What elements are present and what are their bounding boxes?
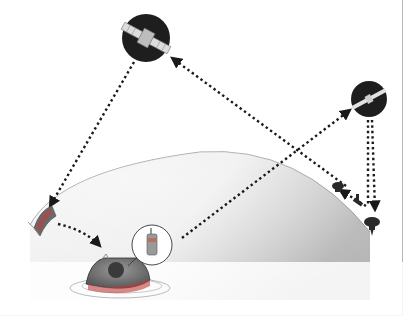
link-geo-satellite-to-ground-station [372, 120, 375, 210]
diagram-canvas [0, 0, 408, 321]
satellite-icon [350, 81, 387, 117]
satellite-icon [119, 14, 172, 62]
earth-horizon [0, 151, 403, 316]
